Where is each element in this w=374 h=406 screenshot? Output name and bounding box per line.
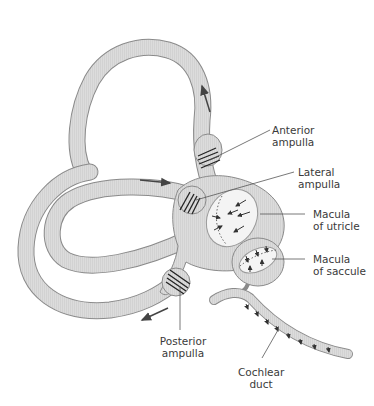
saccule bbox=[232, 238, 284, 286]
label-posterior-ampulla: Posterior ampulla bbox=[158, 335, 208, 359]
label-anterior-ampulla: Anterior ampulla bbox=[272, 124, 314, 148]
label-macula-of-saccule: Macula of saccule bbox=[313, 253, 366, 277]
posterior-flow-arrow-icon bbox=[142, 308, 168, 320]
label-cochlear-duct: Cochlear duct bbox=[238, 366, 284, 390]
label-lateral-ampulla: Lateral ampulla bbox=[298, 166, 340, 190]
label-macula-of-utricle: Macula of utricle bbox=[313, 208, 360, 232]
cochlear-duct-shape bbox=[214, 284, 348, 354]
lateral-semicircular-canal bbox=[52, 187, 190, 265]
leader-cochlear-duct bbox=[262, 330, 278, 358]
